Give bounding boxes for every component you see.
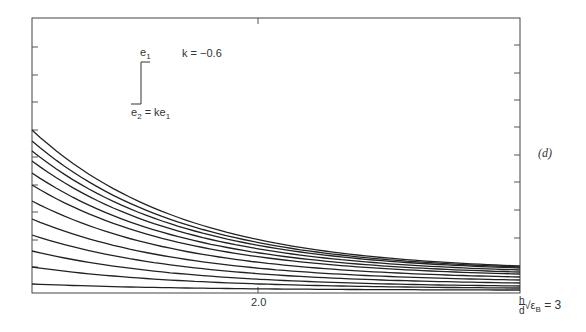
x-axis-label: hd √εB = 3 (519, 296, 561, 316)
chart-plot-area (0, 0, 586, 332)
x-tick-label-2: 2.0 (251, 296, 266, 308)
panel-label: (d) (538, 146, 552, 161)
data-curve (32, 251, 520, 286)
k-annotation: k = −0.6 (182, 47, 222, 59)
data-curves (32, 130, 520, 290)
inset-bracket (131, 62, 150, 104)
data-curve (32, 185, 520, 274)
inset-label-e1: e1 (140, 46, 151, 61)
data-curve (32, 151, 520, 268)
data-curve (32, 173, 520, 272)
data-curve (32, 219, 520, 280)
inset-label-e2: e2 = ke1 (131, 106, 170, 121)
